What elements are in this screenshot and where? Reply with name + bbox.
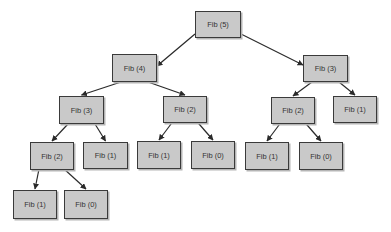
edge-arrow [35, 170, 39, 189]
edge-arrow [306, 124, 321, 141]
edge-arrow [52, 124, 68, 141]
edge-arrow [159, 123, 172, 140]
tree-node: Fib (1) [333, 96, 377, 123]
tree-node: Fib (2) [30, 142, 74, 170]
edge-arrow [241, 34, 303, 65]
edge-arrow [293, 82, 312, 96]
tree-node: Fib (3) [59, 96, 104, 124]
tree-node: Fib (0) [299, 142, 343, 170]
tree-node: Fib (5) [195, 11, 241, 38]
tree-node: Fib (1) [137, 141, 181, 169]
edge-arrow [267, 124, 280, 141]
edge-arrow [148, 82, 185, 95]
tree-node: Fib (0) [64, 190, 108, 219]
tree-node: Fib (0) [191, 141, 235, 169]
edge-arrow [339, 82, 355, 95]
tree-node: Fib (1) [83, 142, 128, 169]
tree-node: Fib (1) [13, 190, 57, 219]
edge-arrow [157, 34, 195, 66]
edge-arrow [65, 170, 86, 189]
edge-arrow [95, 124, 106, 141]
fibonacci-tree-diagram: Fib (5)Fib (4)Fib (3)Fib (3)Fib (2)Fib (… [0, 0, 391, 232]
edge-arrow [198, 123, 213, 140]
edge-arrow [82, 82, 122, 95]
tree-node: Fib (3) [303, 55, 348, 82]
tree-node: Fib (4) [112, 54, 157, 82]
tree-node: Fib (2) [163, 96, 207, 123]
tree-node: Fib (2) [271, 97, 315, 124]
tree-node: Fib (1) [245, 142, 289, 170]
